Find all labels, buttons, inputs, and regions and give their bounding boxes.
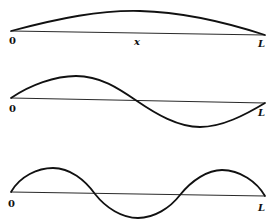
panel-mode-3: 0 L [8, 168, 265, 218]
panel-mode-1: 0 x L [9, 11, 265, 49]
string-equilibrium-line-3 [11, 192, 265, 196]
panel-mode-2: 0 L [9, 76, 265, 127]
label-origin-3: 0 [8, 198, 15, 209]
label-origin-1: 0 [9, 35, 16, 46]
label-x: x [133, 36, 141, 47]
label-length-2: L [257, 107, 265, 118]
label-origin-2: 0 [9, 103, 16, 114]
string-equilibrium-line-1 [11, 31, 265, 35]
label-length-1: L [257, 38, 265, 49]
standing-wave-diagram: 0 x L 0 L 0 L [0, 0, 278, 220]
wave-mode-2 [11, 76, 265, 127]
label-length-3: L [257, 202, 265, 213]
